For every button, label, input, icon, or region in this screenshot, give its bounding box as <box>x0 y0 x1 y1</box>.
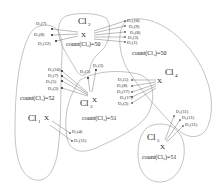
centroid-x-icon: X <box>81 31 86 39</box>
object-label: O₁(3) <box>118 101 129 106</box>
cluster-subscript: 1 <box>38 119 41 124</box>
centroid-x-icon: X <box>160 143 165 151</box>
cluster-3: Cl 3 X count(Cl₃)=51 <box>80 96 116 122</box>
object-label: O₁(17) <box>120 95 133 100</box>
centroid-x-icon: X <box>157 77 162 85</box>
cluster-label: Cl <box>147 132 156 142</box>
centroid-x-icon: X <box>92 96 97 104</box>
cluster-1-contour <box>15 25 62 180</box>
cluster-subscript: 2 <box>88 22 91 27</box>
object-label: O₁(3) <box>93 63 104 68</box>
cluster-1: Cl 1 X count(Cl₁)=52 <box>20 95 54 124</box>
object-label: O₁(11) <box>176 109 189 114</box>
arrows-to-cl1 <box>50 121 72 141</box>
object-label: O₁(4) <box>72 129 83 134</box>
object-label: O₁(17) <box>117 89 130 94</box>
cluster-count: count(Cl₅)=51 <box>142 154 176 161</box>
cluster-5: Cl 5 X count(Cl₅)=51 <box>142 132 176 161</box>
object-label: O₁(11) <box>185 122 198 127</box>
cluster-label: Cl <box>165 67 174 77</box>
cluster-count: count(Cl₄)=50 <box>132 50 166 57</box>
cluster-5-contour <box>138 124 184 182</box>
cluster-2: Cl 2 X count(Cl₂)=50 <box>66 16 100 48</box>
cluster-label: Cl <box>28 113 37 123</box>
object-label: O₁(1) <box>127 40 138 45</box>
object-label: O₁(9) <box>129 24 140 29</box>
centroid-x-icon: X <box>44 114 49 122</box>
object-label: O₁(11) <box>182 115 195 120</box>
cluster-count: count(Cl₁)=52 <box>20 95 54 102</box>
cluster-subscript: 3 <box>90 104 93 109</box>
object-label: O₁(7) <box>36 21 47 26</box>
object-label: O₁(7) <box>48 73 59 78</box>
object-label: O₁(10) <box>127 18 140 23</box>
cluster-label: Cl <box>80 98 89 108</box>
object-label: O₁(5) <box>118 77 129 82</box>
cluster-count: count(Cl₂)=50 <box>66 41 100 48</box>
object-label: O₁(3) <box>48 86 59 91</box>
object-label: O₁(5) <box>46 79 57 84</box>
object-label: O₁(11) <box>74 138 87 143</box>
cluster-subscript: 4 <box>175 73 178 78</box>
object-label: O₁(12) <box>38 41 51 46</box>
object-label: O₁(8) <box>117 83 128 88</box>
cluster-label: Cl <box>78 16 87 26</box>
object-label: O₁(8) <box>34 32 45 37</box>
cluster-4: Cl 4 X count(Cl₄)=50 <box>132 50 178 85</box>
cluster-count: count(Cl₃)=51 <box>82 115 116 122</box>
cluster-diagram: O₁(7) O₁(8) O₁(12) O₁(10) O₁(9) O₁(8) O₁… <box>0 0 219 196</box>
object-label: O₁(5) <box>80 69 91 74</box>
object-label: O₁(10) <box>48 67 61 72</box>
